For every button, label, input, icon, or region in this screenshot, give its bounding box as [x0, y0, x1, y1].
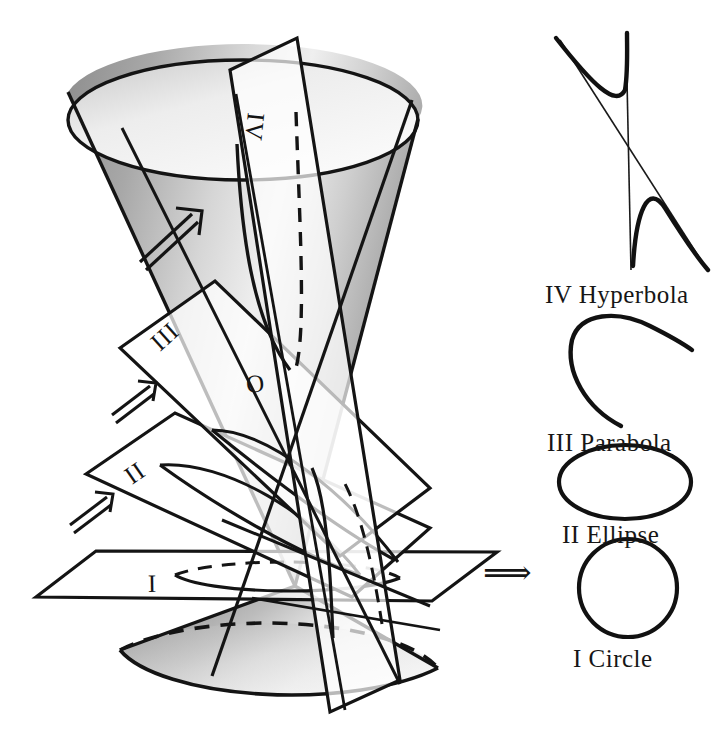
legend-shape-circle: [579, 539, 677, 637]
apex-label-O: O: [245, 369, 267, 398]
legend-caption-circle: I Circle: [573, 645, 653, 673]
conic-sections-drawing: I II III IV O: [0, 0, 725, 751]
legend-shape-parabola: [571, 316, 692, 426]
legend-transition-arrow-icon: ⟹: [483, 556, 532, 590]
legend-caption-parabola: III Parabola: [547, 429, 672, 457]
conic-sections-figure: I II III IV O IV Hyperbola: [0, 0, 725, 751]
hyperbola-branch-lower: [633, 199, 708, 271]
plane-label-IV: IV: [240, 111, 270, 142]
legend-caption-hyperbola: IV Hyperbola: [545, 281, 689, 309]
hyperbola-branch-upper: [556, 33, 627, 96]
parabola-curve: [571, 316, 692, 426]
plane-II-arrow-icon: [70, 492, 113, 533]
plane-III-arrow-icon: [112, 381, 156, 423]
legend-caption-ellipse: II Ellipse: [562, 521, 659, 549]
circle-curve: [579, 539, 677, 637]
legend-shape-hyperbola: [556, 33, 708, 270]
plane-label-I: I: [148, 570, 158, 597]
